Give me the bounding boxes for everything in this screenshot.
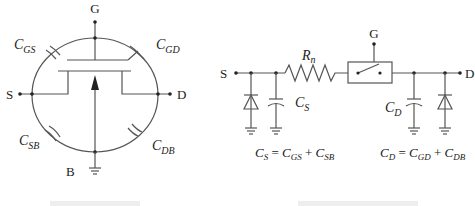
ground-icon [245,128,257,134]
drain-terminal-dot [458,71,462,75]
drain-cap-label: CD [385,100,402,118]
right-caption-clipped [298,201,418,206]
body-arrow-icon [91,75,99,90]
drain-cap-equation: CD = CGD + CDB [380,145,466,162]
gate-terminal-dot [93,20,97,24]
source-diode-icon [244,73,258,128]
gate-node-dot [93,36,97,40]
source-terminal-dot [234,71,238,75]
diagram-canvas: G S D B CGS CGD CSB CDB [0,0,475,206]
gate-label: G [369,26,378,41]
source-cap-label: CS [295,95,309,113]
drain-node-dot [156,92,160,96]
source-capacitor-icon [268,73,284,128]
ground-icon [89,168,101,174]
source-node-dot [30,92,34,96]
source-terminal-dot [18,92,22,96]
drain-diode-icon [438,73,452,128]
switch-gate-dot [372,42,376,46]
source-label: S [220,66,227,81]
source-label: S [6,87,13,102]
csb-capacitor-icon [45,126,60,141]
ground-icon [439,128,451,134]
cgd-label: CGD [156,37,181,55]
switch-contact-dot [378,71,381,74]
gate-label: G [90,1,99,16]
drain-lead [122,71,170,94]
left-caption-clipped [50,201,140,206]
ground-icon [408,128,420,134]
switch-blade [358,64,379,73]
switch-contact-dot [356,71,359,74]
switch-box [348,62,392,83]
drain-label: D [177,87,186,102]
body-label: B [66,164,75,179]
switch-model-diagram: S D G Rn CS CD CS = CGS + CSB CD = CGD +… [220,26,474,162]
ground-icon [270,128,282,134]
cdb-label: CDB [152,138,175,156]
drain-terminal-dot [168,92,172,96]
source-lead [20,71,68,94]
mosfet-diagram: G S D B CGS CGD CSB CDB [6,1,186,179]
resistor-icon [285,65,348,81]
source-cap-equation: CS = CGS + CSB [255,145,335,162]
csb-label: CSB [19,133,39,151]
drain-label: D [465,66,474,81]
resistor-label: Rn [301,48,316,65]
cgs-label: CGS [14,37,36,55]
drain-capacitor-icon [406,73,422,128]
